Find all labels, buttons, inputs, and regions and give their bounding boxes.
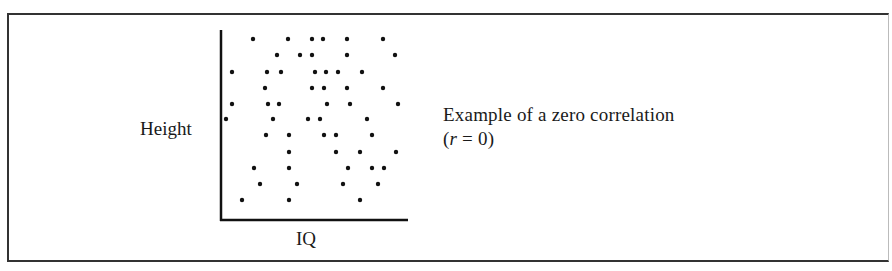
x-axis-label: IQ xyxy=(296,228,316,250)
data-point xyxy=(345,86,349,90)
data-point xyxy=(358,150,362,154)
plot-axes xyxy=(220,30,408,221)
data-point xyxy=(279,70,283,74)
data-point xyxy=(322,86,326,90)
data-point xyxy=(287,133,291,137)
data-point xyxy=(286,37,290,41)
data-point xyxy=(324,70,328,74)
data-point xyxy=(252,166,256,170)
data-point xyxy=(287,150,291,154)
caption-line-1: Example of a zero correlation xyxy=(443,103,675,127)
data-point xyxy=(360,70,364,74)
data-point xyxy=(251,37,255,41)
data-point xyxy=(396,102,400,106)
data-point xyxy=(394,150,398,154)
data-point xyxy=(334,150,338,154)
data-point xyxy=(264,133,268,137)
data-point xyxy=(310,37,314,41)
data-point xyxy=(393,53,397,57)
data-point xyxy=(258,182,262,186)
data-point xyxy=(348,102,352,106)
data-point xyxy=(310,53,314,57)
data-point xyxy=(334,133,338,137)
data-point xyxy=(345,37,349,41)
data-point xyxy=(382,166,386,170)
data-points xyxy=(224,37,400,202)
data-point xyxy=(310,86,314,90)
data-point xyxy=(358,198,362,202)
data-point xyxy=(370,166,374,170)
data-point xyxy=(346,166,350,170)
data-point xyxy=(325,102,329,106)
figure-caption: Example of a zero correlation (r = 0) xyxy=(443,103,675,151)
caption-line-2: (r = 0) xyxy=(443,127,675,151)
data-point xyxy=(287,166,291,170)
data-point xyxy=(298,53,302,57)
data-point xyxy=(277,102,281,106)
data-point xyxy=(306,117,310,121)
data-point xyxy=(263,86,267,90)
data-point xyxy=(230,70,234,74)
y-axis-label: Height xyxy=(140,118,192,140)
data-point xyxy=(381,37,385,41)
data-point xyxy=(370,133,374,137)
data-point xyxy=(345,53,349,57)
data-point xyxy=(271,117,275,121)
data-point xyxy=(381,86,385,90)
data-point xyxy=(230,102,234,106)
data-point xyxy=(365,117,369,121)
data-point xyxy=(224,117,228,121)
data-point xyxy=(265,70,269,74)
data-point xyxy=(275,53,279,57)
r-variable: r xyxy=(450,128,458,149)
data-point xyxy=(266,102,270,106)
data-point xyxy=(318,117,322,121)
data-point xyxy=(336,70,340,74)
data-point xyxy=(287,198,291,202)
data-point xyxy=(240,198,244,202)
data-point xyxy=(341,182,345,186)
data-point xyxy=(295,182,299,186)
data-point xyxy=(321,37,325,41)
data-point xyxy=(376,182,380,186)
data-point xyxy=(313,70,317,74)
data-point xyxy=(322,133,326,137)
